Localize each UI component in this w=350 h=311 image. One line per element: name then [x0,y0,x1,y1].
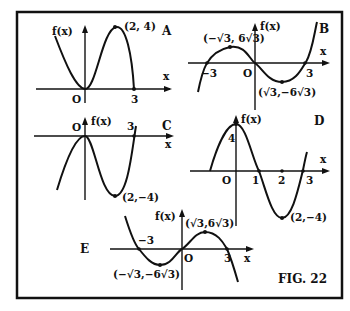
origin-label: O [184,252,193,264]
y-tick-label: 4 [228,132,235,144]
tick-2 [280,169,284,173]
x-axis-arrow-icon [322,168,330,174]
panel-letter: C [162,119,172,133]
min-label: (−√3,−6√3) [113,268,180,280]
x-axis-label: x [163,70,170,82]
min-point [113,194,117,198]
x-tick-label: 3 [127,120,134,132]
x-axis-arrow-icon [322,60,330,66]
figure-22: f(x) x O 3 (2, 4) A f(x) x O −3 3 (−√3, … [0,0,350,311]
min-point [280,216,284,220]
max-label: (−√3, 6√3) [203,32,265,44]
panel-letter: D [314,114,324,128]
panel-d: f(x) x O 4 1 2 3 (2,−4) D [190,113,330,226]
x-tick-3-label: 3 [306,174,313,186]
x-axis-arrow-icon [164,86,172,92]
x-axis-label: x [320,45,327,57]
origin-label: O [72,93,81,105]
y-axis-arrow-icon [82,25,88,33]
min-point [280,80,284,84]
y-axis-label: f(x) [52,25,73,37]
point-label: (2, 4) [124,20,156,32]
max-point [113,25,117,29]
root-neg [205,61,209,65]
x-axis-label: x [244,252,251,264]
x-tick-1-label: 1 [252,174,259,186]
x-tick-neg-label: −3 [138,234,154,246]
x-tick-neg-label: −3 [201,67,217,79]
y-axis-label: f(x) [155,210,176,222]
panel-letter: B [319,22,329,36]
point-label: (2,−4) [122,191,159,203]
y-axis-arrow-icon [82,117,88,125]
x-tick-pos-label: 3 [306,67,313,79]
panel-a: f(x) x O 3 (2, 4) A [36,20,172,105]
root-pos [225,247,229,251]
root-point [132,134,136,138]
panel-letter: A [161,24,172,38]
max-label: (√3,6√3) [185,217,234,229]
x-tick-pos-label: 3 [224,252,231,264]
y-axis-label: f(x) [241,113,262,125]
x-axis-label: x [320,153,327,165]
panel-letter: E [80,242,89,256]
x-tick-2-label: 2 [278,174,285,186]
root-neg [137,247,141,251]
root-point [132,87,136,91]
panel-e: f(x) x O −3 3 (√3,6√3) (−√3,−6√3) E [80,209,254,290]
origin-label: O [222,174,231,186]
panel-c: f(x) x O 3 (2,−4) C [34,115,174,203]
root-pos [303,61,307,65]
max-point [228,45,232,49]
y-axis-label: f(x) [260,20,281,32]
point-label: (2,−4) [290,211,327,223]
figure-frame [17,12,342,298]
min-point [158,263,162,267]
y-axis-label: f(x) [91,115,112,127]
max-point [203,230,207,234]
origin-label: O [72,121,81,133]
x-tick-label: 3 [131,93,138,105]
origin-label: O [243,67,252,79]
panel-b: f(x) x O −3 3 (−√3, 6√3) (√3,−6√3) B [188,20,330,110]
max-point [234,122,238,126]
root-3 [301,169,305,173]
root-1 [257,169,261,173]
min-label: (√3,−6√3) [258,86,316,98]
x-axis-label: x [165,138,172,150]
y-axis-arrow-icon [252,23,258,31]
figure-caption: FIG. 22 [278,272,327,286]
y-axis-arrow-icon [179,209,185,217]
y-axis-arrow-icon [233,115,239,123]
